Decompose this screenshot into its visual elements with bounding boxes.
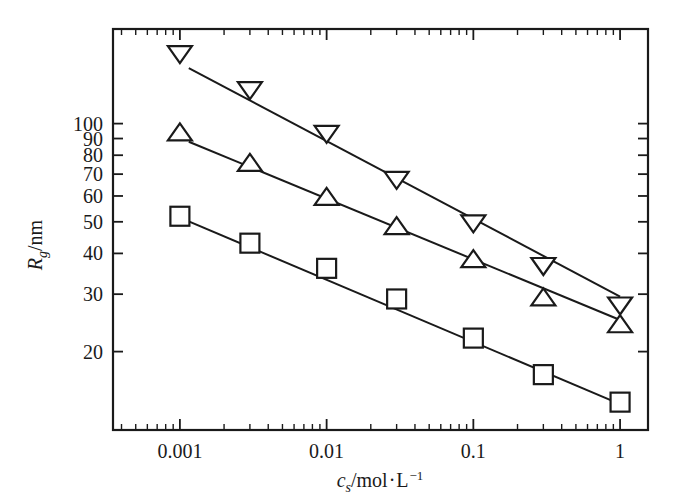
y-tick-label: 30 [83, 283, 103, 305]
y-label-units: /nm [24, 219, 46, 251]
data-point-square [387, 289, 406, 308]
data-point-square [611, 393, 630, 412]
x-label-units: /mol [351, 469, 388, 491]
data-point-square [464, 329, 483, 348]
x-tick-label: 0.001 [157, 440, 202, 462]
y-tick-label: 60 [83, 185, 103, 207]
chart-figure: 0.0010.010.11 1009080706050403020 Rg/nm … [0, 0, 680, 503]
y-tick-label: 40 [83, 242, 103, 264]
x-tick-label: 0.01 [309, 440, 344, 462]
data-point-square [534, 365, 553, 384]
y-label-symbol: R [24, 258, 46, 271]
x-label-symbol: c [337, 469, 346, 491]
x-tick-label: 1 [615, 440, 625, 462]
data-point-square [317, 259, 336, 278]
x-tick-label: 0.1 [461, 440, 486, 462]
data-point-square [240, 234, 259, 253]
x-label-exponent: −1 [410, 468, 424, 483]
log-log-scatter-plot: 0.0010.010.11 1009080706050403020 Rg/nm … [0, 0, 680, 503]
data-point-square [170, 207, 189, 226]
y-tick-label: 70 [83, 163, 103, 185]
y-label-subscript: g [35, 251, 50, 258]
y-tick-label: 20 [83, 341, 103, 363]
x-label-dot: · [389, 469, 396, 491]
x-label-unit-L: L [396, 469, 408, 491]
y-tick-label: 50 [83, 211, 103, 233]
